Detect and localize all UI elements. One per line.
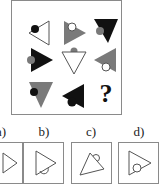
- triangle-right-gray-icon: [58, 15, 90, 47]
- option-d-triangle-icon: [119, 143, 158, 183]
- triangle-left-black-icon: [58, 78, 90, 110]
- triangle-left-gray-icon: [90, 44, 122, 76]
- triangle-right-black-icon: [25, 44, 57, 76]
- option-b[interactable]: [23, 142, 64, 184]
- triangle-down-gray-icon: [25, 78, 57, 110]
- cell-r1c2: [58, 15, 90, 47]
- cell-r1c3: [90, 13, 122, 45]
- option-b-triangle-icon: [24, 143, 63, 183]
- cell-r2c2: [58, 44, 90, 76]
- option-a[interactable]: [0, 142, 23, 184]
- option-b-label: b): [29, 124, 59, 140]
- triangle-down-white-icon: [58, 44, 90, 76]
- option-c-triangle-icon: [72, 143, 111, 183]
- option-a-label: a): [0, 124, 16, 140]
- missing-cell-question-mark: ?: [90, 78, 122, 110]
- cell-r2c3: [90, 44, 122, 76]
- option-d-label: d): [124, 124, 154, 140]
- option-d[interactable]: [118, 142, 159, 184]
- cell-r3c1: [25, 78, 57, 110]
- cell-r1c1: [25, 15, 57, 47]
- option-a-triangle-icon: [0, 143, 22, 183]
- puzzle-grid: ?: [11, 0, 122, 115]
- option-c-label: c): [76, 124, 106, 140]
- triangle-left-white-icon: [25, 15, 57, 47]
- cell-r2c1: [25, 44, 57, 76]
- cell-r3c2: [58, 78, 90, 110]
- triangle-down-black-icon: [90, 13, 122, 45]
- option-c[interactable]: [71, 142, 112, 184]
